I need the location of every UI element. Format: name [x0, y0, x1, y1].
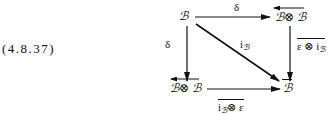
node-bottom-left: ℬ⊗ ℬ [170, 81, 201, 96]
node-bottom-right: ℬ [282, 79, 292, 96]
label-right: ε ⊗ iℬ [297, 38, 325, 54]
node-top-left: ℬ [179, 9, 188, 24]
arrow-diagonal [196, 24, 279, 81]
label-top-delta: δ [234, 1, 239, 13]
label-bottom: iℬ⊗ ε [218, 99, 244, 115]
label-left-delta: δ [165, 38, 170, 50]
label-diagonal: iℬ [240, 38, 249, 52]
node-top-right: ℬ⊗ ℬ [275, 10, 306, 25]
